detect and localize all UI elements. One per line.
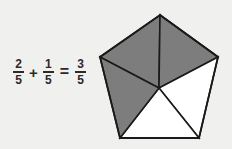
plus-operator: + <box>29 65 38 80</box>
pentagon-outline <box>100 15 218 138</box>
pentagon-segment-right-wedge <box>159 57 218 138</box>
pentagon-segment-left-wedge <box>100 57 159 138</box>
fraction-addend-1-denominator: 5 <box>14 73 23 86</box>
fraction-sum: 3 5 <box>75 58 86 86</box>
fraction-sum-numerator: 3 <box>76 58 85 71</box>
pentagon-segment-top-left-wedge <box>100 15 160 88</box>
pentagon-segment-top-right-wedge <box>159 15 218 88</box>
fraction-sum-denominator: 5 <box>76 73 85 86</box>
equals-operator: = <box>60 64 69 80</box>
pentagon-segment-bottom-wedge <box>120 88 199 138</box>
fraction-addend-2-numerator: 1 <box>44 58 53 71</box>
fraction-pentagon-figure: 2 5 + 1 5 = 3 5 <box>0 0 232 149</box>
fraction-addend-1: 2 5 <box>13 58 24 86</box>
pentagon-segment-group <box>100 15 218 138</box>
fraction-addend-2-denominator: 5 <box>44 73 53 86</box>
fraction-addend-1-numerator: 2 <box>14 58 23 71</box>
fraction-addend-2: 1 5 <box>43 58 54 86</box>
fraction-equation: 2 5 + 1 5 = 3 5 <box>12 55 87 89</box>
